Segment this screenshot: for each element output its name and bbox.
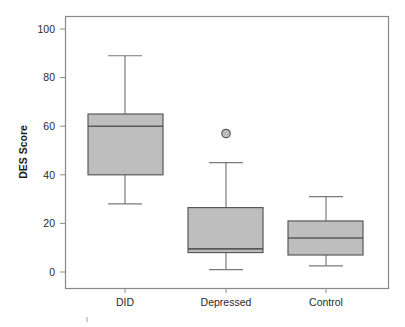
y-axis-title: DES Score bbox=[17, 125, 29, 179]
x-category-label-control: Control bbox=[309, 296, 343, 308]
outlier-point-depressed bbox=[222, 129, 230, 137]
y-tick-label-100: 100 bbox=[37, 23, 55, 35]
box-did bbox=[88, 114, 163, 175]
boxplot-figure: 100 80 60 40 20 0 DES Score DID Depresse… bbox=[0, 0, 405, 327]
scan-speck bbox=[86, 317, 88, 322]
y-tick-label-40: 40 bbox=[43, 169, 55, 181]
box-group-did bbox=[88, 56, 163, 204]
y-axis-ticks bbox=[60, 29, 65, 272]
y-tick-label-0: 0 bbox=[49, 266, 55, 278]
boxplot-screenshot: 100 80 60 40 20 0 DES Score DID Depresse… bbox=[0, 0, 405, 327]
y-tick-label-60: 60 bbox=[43, 120, 55, 132]
box-group-depressed bbox=[188, 129, 263, 269]
x-category-label-did: DID bbox=[116, 296, 135, 308]
x-axis-category-labels: DID Depressed Control bbox=[116, 296, 343, 308]
x-category-label-depressed: Depressed bbox=[201, 296, 252, 308]
y-tick-label-80: 80 bbox=[43, 71, 55, 83]
y-axis-tick-labels: 100 80 60 40 20 0 bbox=[37, 23, 55, 278]
box-group-control bbox=[288, 197, 363, 266]
y-tick-label-20: 20 bbox=[43, 217, 55, 229]
box-depressed bbox=[188, 208, 263, 253]
